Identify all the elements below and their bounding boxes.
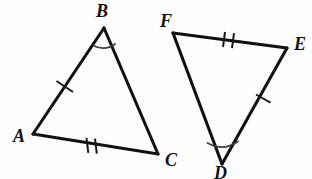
tick-mark-double-ac-1 — [87, 138, 89, 153]
tick-group-ab — [57, 81, 74, 92]
tick-mark-single-ab — [57, 81, 74, 92]
vertex-label-c: C — [165, 150, 178, 170]
side-fd — [173, 33, 222, 164]
geometry-figure: A B C F E D — [0, 0, 312, 179]
tick-mark-double-ac-2 — [95, 139, 97, 154]
vertex-label-a: A — [12, 126, 25, 146]
vertex-label-b: B — [95, 1, 108, 21]
side-fe — [173, 33, 287, 48]
vertex-label-f: F — [159, 11, 172, 31]
triangle-abc: A B C — [12, 1, 178, 170]
triangle-fed: F E D — [159, 11, 306, 179]
tick-group-ac — [87, 138, 97, 154]
tick-mark-double-fe-1 — [223, 32, 225, 47]
vertex-label-e: E — [293, 34, 306, 54]
side-ab — [33, 28, 104, 134]
vertex-label-d: D — [213, 163, 227, 179]
side-bc — [104, 28, 158, 154]
side-ed — [222, 48, 287, 164]
geometry-canvas: A B C F E D — [0, 0, 312, 179]
tick-mark-double-fe-2 — [232, 33, 234, 48]
